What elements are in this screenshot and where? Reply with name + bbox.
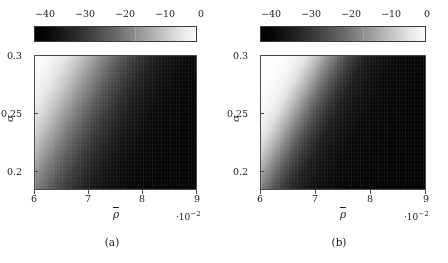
- heatmap-b-ylabel: σ: [230, 115, 241, 122]
- heatmap-a-x-exponent: ·10−2: [176, 210, 201, 222]
- heatmap-a-ytick-0: 0.3: [7, 50, 22, 61]
- heatmap-b-ytick-mark-2: [260, 171, 264, 172]
- colorbar-b-seam: [363, 27, 364, 41]
- heatmap-a-xtick-3: 9: [194, 193, 200, 204]
- heatmap-b-surface: [261, 56, 425, 189]
- heatmap-a-xlabel-rho: ρ: [113, 208, 119, 220]
- heatmap-a-xlabel: ρ: [113, 208, 119, 220]
- heatmap-a-ytick-mark-1: [34, 113, 38, 114]
- heatmap-a-ylabel: σ: [4, 115, 15, 122]
- heatmap-a-xtick-1: 7: [85, 193, 91, 204]
- colorbar-b-tick-4: 0: [424, 8, 430, 19]
- heatmap-a-plot-area: [34, 55, 197, 190]
- colorbar-b-ticks: −40 −30 −20 −10 0: [258, 8, 426, 22]
- heatmap-b-x-exponent-base: ·10: [404, 212, 418, 222]
- colorbar-a-ticks: −40 −30 −20 −10 0: [34, 8, 202, 22]
- colorbar-a-tick-4: 0: [198, 8, 204, 19]
- heatmap-a-surface: [35, 56, 196, 189]
- heatmap-a-ytick-mark-2: [34, 171, 38, 172]
- caption-b: (b): [332, 236, 347, 248]
- colorbar-a-seam: [135, 27, 136, 41]
- heatmap-a-xtick-0: 6: [31, 193, 37, 204]
- colorbar-a-tick-0: −40: [35, 8, 54, 19]
- heatmap-a-x-exponent-power: −2: [190, 210, 200, 218]
- panel-a: −40 −30 −20 −10 0 0.3 0.25 0.2 σ 6: [0, 0, 224, 263]
- heatmap-b-ytick-mark-0: [260, 55, 264, 56]
- heatmap-b-xlabel: ρ: [340, 208, 346, 220]
- heatmap-a-ytick-mark-0: [34, 55, 38, 56]
- heatmap-b-x-exponent: ·10−2: [404, 210, 429, 222]
- heatmap-b-xtick-0: 6: [257, 193, 263, 204]
- heatmap-b-ytick-mark-1: [260, 113, 264, 114]
- heatmap-a-ytick-2: 0.2: [7, 166, 22, 177]
- colorbar-b-tick-3: −10: [381, 8, 400, 19]
- heatmap-b-xtick-3: 9: [423, 193, 429, 204]
- colorbar-a-tick-1: −30: [75, 8, 94, 19]
- heatmap-b-ytick-2: 0.2: [233, 166, 248, 177]
- heatmap-b-x-exponent-power: −2: [418, 210, 428, 218]
- colorbar-a-tick-3: −10: [155, 8, 174, 19]
- heatmap-b-xtick-1: 7: [312, 193, 318, 204]
- colorbar-a: [34, 26, 197, 42]
- heatmap-b-ytick-0: 0.3: [233, 50, 248, 61]
- colorbar-b-tick-0: −40: [261, 8, 280, 19]
- colorbar-b-tick-2: −20: [341, 8, 360, 19]
- panel-b: −40 −30 −20 −10 0 0.3 0.25 0.2 σ 6 7 8 9…: [224, 0, 448, 263]
- caption-a: (a): [105, 236, 119, 248]
- heatmap-a-x-exponent-base: ·10: [176, 212, 190, 222]
- colorbar-b-tick-1: −30: [301, 8, 320, 19]
- colorbar-a-tick-2: −20: [115, 8, 134, 19]
- heatmap-b-plot-area: [260, 55, 426, 190]
- figure-container: −40 −30 −20 −10 0 0.3 0.25 0.2 σ 6: [0, 0, 448, 263]
- heatmap-b-xtick-2: 8: [367, 193, 373, 204]
- heatmap-a-xtick-2: 8: [139, 193, 145, 204]
- heatmap-b-xlabel-rho: ρ: [340, 208, 346, 220]
- colorbar-b: [260, 26, 426, 42]
